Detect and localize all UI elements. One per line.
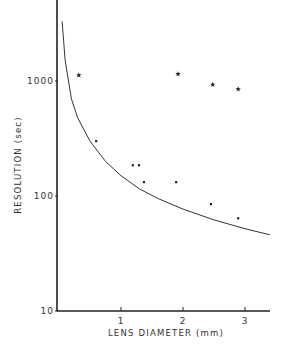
star-marker <box>236 86 241 91</box>
axes <box>57 0 270 311</box>
dot-marker <box>175 181 177 183</box>
fit-curve <box>62 21 270 234</box>
x-axis-label: LENS DIAMETER (mm) <box>108 328 224 338</box>
x-ticks: 123 <box>118 307 249 326</box>
y-tick-label: 100 <box>34 191 54 201</box>
chart: 123 101001000 LENS DIAMETER (mm) RESOLUT… <box>0 0 287 355</box>
star-marker <box>76 73 81 78</box>
star-marker <box>210 82 215 87</box>
dot-marker <box>138 164 140 166</box>
x-tick-label: 3 <box>242 316 249 326</box>
y-tick-label: 1000 <box>27 76 54 86</box>
star-marker <box>175 71 180 76</box>
x-tick-label: 1 <box>118 316 125 326</box>
y-axis-label: RESOLUTION (sec) <box>13 116 23 214</box>
dot-marker <box>132 164 134 166</box>
y-ticks: 101001000 <box>27 76 58 316</box>
dot-marker <box>237 217 239 219</box>
dot-marker <box>95 140 97 142</box>
dot-marker <box>210 203 212 205</box>
x-tick-label: 2 <box>180 316 187 326</box>
y-tick-label: 10 <box>41 306 54 316</box>
dot-marker <box>143 181 145 183</box>
data-points <box>76 71 241 219</box>
